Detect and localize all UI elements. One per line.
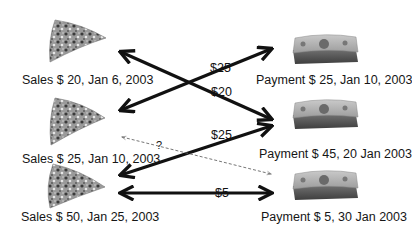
link-arrow-sale3-payment2 bbox=[121, 126, 271, 175]
pizza-slice-icon bbox=[48, 164, 105, 208]
cash-stack-icon bbox=[293, 171, 358, 200]
sale-label: Sales $ 25, Jan 10, 2003 bbox=[22, 152, 160, 166]
payment-label: Payment $ 45, 20 Jan 2003 bbox=[259, 147, 412, 161]
pizza-slice-icon bbox=[50, 98, 105, 145]
payment-label: Payment $ 25, Jan 10, 2003 bbox=[256, 73, 412, 87]
link-amount-label: $25 bbox=[210, 61, 231, 75]
cash-stack-icon bbox=[293, 100, 358, 129]
uncertain-link-label: ? bbox=[156, 139, 162, 151]
sale-label: Sales $ 50, Jan 25, 2003 bbox=[21, 210, 159, 224]
link-amount-label: $5 bbox=[215, 186, 229, 200]
payment-label: Payment $ 5, 30 Jan 2003 bbox=[261, 210, 407, 224]
link-amount-label: $20 bbox=[211, 85, 232, 99]
cash-stack-icon bbox=[293, 35, 358, 64]
link-amount-label: $25 bbox=[211, 128, 232, 142]
sale-label: Sales $ 20, Jan 6, 2003 bbox=[22, 73, 153, 87]
pizza-slice-icon bbox=[50, 20, 106, 62]
